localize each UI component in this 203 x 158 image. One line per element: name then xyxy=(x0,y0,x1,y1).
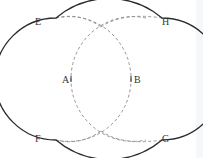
label-a: A xyxy=(62,74,70,85)
oval-construction-diagram: E H A B F G xyxy=(0,0,203,158)
label-e: E xyxy=(35,16,41,27)
label-b: B xyxy=(134,74,141,85)
label-h: H xyxy=(162,16,169,27)
dashed-circle-a xyxy=(56,17,162,142)
outer-oval xyxy=(0,0,203,158)
dashed-top-arcs xyxy=(56,16,162,27)
label-f: F xyxy=(35,133,41,144)
label-g: G xyxy=(162,133,169,144)
